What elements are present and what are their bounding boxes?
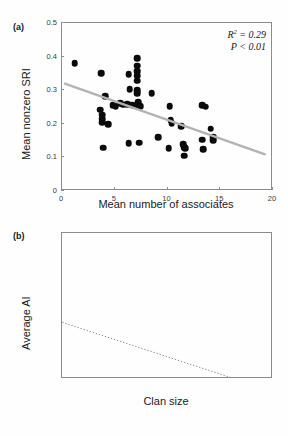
panel-a-annotation-p: P < 0.01 <box>231 41 266 52</box>
ytick-label: 0 <box>37 186 57 195</box>
xtick-label: 20 <box>268 194 276 203</box>
r2-value: = 0.29 <box>239 29 266 40</box>
data-point <box>100 144 107 151</box>
data-point <box>165 145 172 152</box>
xtick-mark <box>272 187 273 190</box>
panel-a-yaxis-title: Mean nonzero SRI <box>20 68 32 160</box>
data-point <box>200 146 207 153</box>
xtick-mark <box>167 187 168 190</box>
data-point <box>148 90 155 97</box>
panel-a: (a) 0510152000.10.20.30.40.5 R2 = 0.29 P… <box>0 0 288 215</box>
data-point <box>126 86 133 93</box>
data-point <box>105 121 112 128</box>
data-point <box>102 93 109 100</box>
panel-b-plot-area <box>61 232 272 378</box>
ytick-mark <box>61 156 64 157</box>
ytick-mark <box>61 123 64 124</box>
data-point <box>182 145 189 152</box>
panel-a-label: (a) <box>13 22 24 32</box>
ytick-label: 0.5 <box>37 18 57 27</box>
ytick-mark <box>61 56 64 57</box>
ytick-mark <box>61 190 64 191</box>
data-point <box>168 120 175 127</box>
panel-a-xaxis-title: Mean number of associates <box>98 198 233 210</box>
data-point <box>210 137 217 144</box>
panel-b-label: (b) <box>13 231 25 241</box>
panel-a-annotation-r2: R2 = 0.29 <box>227 28 266 40</box>
p-value-text: P < 0.01 <box>231 41 266 52</box>
data-point <box>134 55 141 62</box>
xtick-mark <box>114 187 115 190</box>
ytick-label: 0.4 <box>37 51 57 60</box>
data-point <box>136 139 143 146</box>
data-point <box>134 90 141 97</box>
figure-container: (a) 0510152000.10.20.30.40.5 R2 = 0.29 P… <box>0 0 288 436</box>
data-point <box>71 60 78 67</box>
panel-b-yaxis-title: Average AI <box>20 296 32 350</box>
xtick-label: 0 <box>59 194 63 203</box>
data-point <box>98 70 105 77</box>
data-point <box>178 123 185 130</box>
data-point <box>134 78 141 85</box>
panel-b-xaxis-title: Clan size <box>143 395 188 407</box>
ytick-mark <box>61 89 64 90</box>
data-point <box>199 136 206 143</box>
data-point <box>137 103 144 110</box>
data-point <box>208 126 215 133</box>
data-point <box>155 134 162 141</box>
ytick-label: 0.3 <box>37 85 57 94</box>
data-point <box>202 103 209 110</box>
r2-exponent: 2 <box>234 28 237 35</box>
data-point <box>125 140 132 147</box>
panel-b: (b) 0510152025303500.20.40.60.8 Clan siz… <box>0 215 288 436</box>
ytick-label: 0.2 <box>37 118 57 127</box>
xtick-mark <box>219 187 220 190</box>
data-point <box>166 103 173 110</box>
ytick-label: 0.1 <box>37 152 57 161</box>
data-point <box>125 71 132 78</box>
data-point <box>181 152 188 159</box>
ytick-mark <box>61 22 64 23</box>
